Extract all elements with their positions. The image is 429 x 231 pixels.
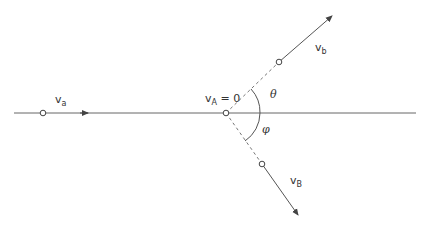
label-phi: φ bbox=[262, 123, 270, 136]
angle-theta-arc bbox=[251, 89, 260, 113]
incoming-particle bbox=[40, 110, 46, 116]
collision-diagram: va vA = 0 vb vB θ φ bbox=[0, 0, 429, 231]
angle-phi-arc bbox=[245, 113, 260, 141]
label-vb: vb bbox=[315, 41, 327, 56]
vector-B-arrow bbox=[262, 164, 298, 215]
particle-b bbox=[276, 59, 282, 65]
label-vA-zero: vA = 0 bbox=[205, 92, 240, 107]
target-particle bbox=[223, 110, 229, 116]
label-va: va bbox=[55, 93, 67, 108]
particle-B bbox=[259, 161, 265, 167]
dashed-path-B bbox=[226, 113, 262, 164]
label-vB: vB bbox=[290, 174, 302, 189]
label-theta: θ bbox=[270, 88, 277, 101]
